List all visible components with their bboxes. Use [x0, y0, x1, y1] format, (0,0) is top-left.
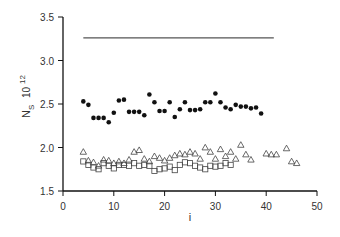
filled-circle-point	[178, 107, 183, 112]
filled-circle-point	[112, 110, 117, 115]
filled-circle-point	[249, 106, 254, 111]
open-triangle-point	[248, 156, 254, 162]
filled-circle-point	[213, 91, 218, 96]
open-triangle-point	[202, 144, 208, 150]
filled-circle-point	[239, 104, 244, 109]
filled-circle-point	[223, 105, 228, 110]
filled-circle-point	[208, 100, 213, 105]
open-square-point	[187, 161, 192, 166]
y-axis-label: N S 10 12	[18, 75, 36, 118]
x-axis-label: i	[189, 211, 191, 223]
filled-circle-point	[157, 109, 162, 114]
filled-circle-point	[86, 103, 91, 108]
open-triangle-point	[136, 147, 142, 153]
filled-circle-point	[254, 105, 259, 110]
y-tick-label: 3.0	[40, 56, 54, 67]
filled-circle-point	[259, 111, 264, 116]
open-square-point	[137, 163, 142, 168]
open-triangle-point	[212, 156, 218, 162]
open-square-point	[203, 167, 208, 172]
y-label-sub: S	[27, 105, 36, 110]
open-square-point	[172, 168, 177, 173]
filled-circle-point	[117, 98, 122, 103]
open-square-point	[177, 162, 182, 167]
filled-circle-point	[137, 110, 142, 115]
filled-circle-point	[228, 107, 233, 112]
open-square-point	[167, 164, 172, 169]
open-triangle-point	[263, 150, 269, 156]
filled-circle-point	[183, 100, 188, 105]
open-square-point	[213, 164, 218, 169]
y-tick-label: 2.5	[40, 99, 54, 110]
open-square-point	[228, 162, 233, 167]
filled-circle-point	[198, 107, 203, 112]
open-triangle-point	[217, 146, 223, 152]
filled-circle-point	[203, 100, 208, 105]
x-tick-label: 40	[261, 201, 273, 212]
x-tick-label: 10	[108, 201, 120, 212]
filled-circle-point	[142, 113, 147, 118]
open-square-point	[218, 163, 223, 168]
open-triangle-point	[288, 158, 294, 164]
x-tick-label: 50	[311, 201, 323, 212]
scatter-chart: 010203040501.52.02.53.03.5 i N S 10 12	[0, 0, 340, 237]
y-label-main: N	[20, 110, 32, 118]
filled-circle-point	[81, 99, 86, 104]
y-label-exp: 12	[18, 75, 27, 84]
y-label-mult: 10	[21, 86, 32, 98]
filled-circle-point	[244, 104, 249, 109]
filled-circle-point	[218, 100, 223, 105]
open-triangle-point	[227, 149, 233, 155]
filled-circle-point	[106, 120, 111, 125]
open-square-point	[132, 161, 137, 166]
open-square-point	[96, 167, 101, 172]
open-square-point	[192, 163, 197, 168]
filled-circle-point	[101, 116, 106, 121]
y-tick-label: 2.0	[40, 143, 54, 154]
open-triangle-point	[197, 156, 203, 162]
filled-circle-point	[167, 100, 172, 105]
filled-circle-point	[162, 109, 167, 114]
open-square-point	[198, 165, 203, 170]
filled-circle-point	[91, 116, 96, 121]
filled-circle-point	[96, 116, 101, 121]
filled-circle-point	[233, 103, 238, 108]
y-tick-label: 1.5	[40, 186, 54, 197]
open-triangle-point	[151, 153, 157, 159]
open-square-point	[223, 161, 228, 166]
open-triangle-point	[238, 142, 244, 148]
open-square-point	[111, 166, 116, 171]
open-triangle-point	[177, 150, 183, 156]
open-triangle-point	[243, 151, 249, 157]
open-square-point	[152, 168, 157, 173]
open-square-point	[142, 162, 147, 167]
axis-ticks: 010203040501.52.02.53.03.5	[40, 12, 323, 212]
filled-circle-point	[193, 108, 198, 113]
open-triangle-point	[187, 149, 193, 155]
filled-circle-point	[147, 92, 152, 97]
filled-circle-point	[188, 108, 193, 113]
filled-circle-point	[127, 110, 132, 115]
open-triangle-point	[233, 156, 239, 162]
open-triangle-point	[283, 145, 289, 151]
x-tick-label: 0	[60, 201, 66, 212]
x-tick-label: 20	[159, 201, 171, 212]
filled-circle-point	[172, 115, 177, 120]
open-triangle-point	[141, 156, 147, 162]
y-tick-label: 3.5	[40, 12, 54, 23]
filled-circle-point	[132, 110, 137, 115]
data-series	[80, 38, 300, 174]
filled-circle-point	[152, 100, 157, 105]
open-square-point	[157, 167, 162, 172]
open-triangle-point	[80, 149, 86, 155]
x-tick-label: 30	[210, 201, 222, 212]
filled-circle-point	[122, 97, 127, 102]
open-square-point	[182, 160, 187, 165]
open-square-point	[162, 166, 167, 171]
open-square-point	[208, 163, 213, 168]
